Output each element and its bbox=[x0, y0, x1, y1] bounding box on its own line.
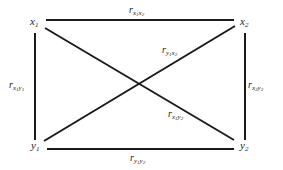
node-y1: y1 bbox=[31, 140, 39, 153]
edge-label-y1-x2: ry1x2 bbox=[162, 45, 177, 57]
edge-label-x1-x2: rx1x2 bbox=[129, 5, 144, 17]
edge-label-x2-y2: rx2y2 bbox=[248, 80, 263, 92]
node-y2: y2 bbox=[240, 140, 248, 153]
edge-label-x1-y2: rx1y2 bbox=[168, 109, 183, 121]
edge-label-x1-y1: rx1y1 bbox=[9, 80, 24, 92]
edge-label-y1-y2: ry1y2 bbox=[130, 153, 145, 165]
correlation-diagram: x1 x2 y1 y2 rx1x2 ry1y2 rx1y1 rx2y2 ry1x… bbox=[0, 0, 283, 170]
node-x1: x1 bbox=[30, 16, 38, 29]
node-x2: x2 bbox=[240, 16, 248, 29]
